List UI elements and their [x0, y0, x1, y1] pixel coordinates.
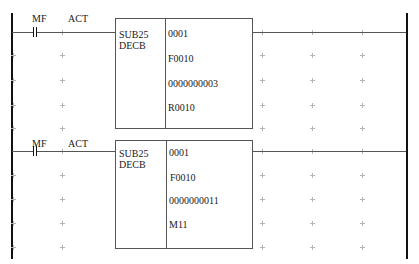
- grid-cross: [60, 197, 65, 202]
- grid-cross: [60, 78, 65, 83]
- grid-cross: [11, 221, 16, 226]
- function-block-instruction: DECB: [119, 40, 146, 51]
- grid-cross: [60, 103, 65, 108]
- rung-1-wire: [37, 32, 115, 33]
- grid-cross: [11, 126, 16, 131]
- grid-cross: [360, 245, 365, 250]
- rung-2-output-wire: [253, 151, 406, 152]
- grid-cross: [260, 103, 265, 108]
- grid-cross: [360, 126, 365, 131]
- grid-cross: [310, 173, 315, 178]
- grid-cross: [260, 53, 265, 58]
- operand-value: 0000000003: [168, 79, 218, 89]
- grid-cross: [260, 173, 265, 178]
- grid-cross: [310, 197, 315, 202]
- grid-cross: [11, 78, 16, 83]
- function-block-name: SUB25: [119, 29, 148, 40]
- operand-control: 0001: [169, 148, 189, 158]
- function-block-instruction: DECB: [119, 159, 146, 170]
- grid-cross: [60, 126, 65, 131]
- grid-cross: [60, 53, 65, 58]
- grid-cross: [11, 53, 16, 58]
- grid-cross: [310, 53, 315, 58]
- operand-format: F0010: [168, 54, 194, 64]
- rung-1-function-block[interactable]: SUB25 DECB 0001 F0010 0000000003 R0010: [115, 18, 253, 129]
- grid-cross: [310, 245, 315, 250]
- right-power-rail: [406, 13, 408, 259]
- rung-2-wire: [37, 151, 115, 152]
- grid-cross: [11, 245, 16, 250]
- grid-cross: [310, 103, 315, 108]
- grid-cross: [310, 126, 315, 131]
- grid-cross: [310, 78, 315, 83]
- rung-1-input-wire: [12, 32, 34, 33]
- grid-cross: [260, 221, 265, 226]
- grid-cross: [310, 221, 315, 226]
- rung-1-contact-label: MF: [32, 14, 46, 24]
- grid-cross: [260, 78, 265, 83]
- grid-cross: [11, 173, 16, 178]
- function-block-divider: [165, 19, 166, 128]
- operand-control: 0001: [168, 29, 188, 39]
- operand-format: F0010: [170, 173, 196, 183]
- grid-cross: [260, 197, 265, 202]
- rung-2-function-block[interactable]: SUB25 DECB 0001 F0010 0000000011 M11: [115, 140, 253, 249]
- function-block-name: SUB25: [119, 148, 148, 159]
- operand-output: M11: [169, 220, 188, 230]
- operand-output: R0010: [168, 103, 195, 113]
- grid-cross: [360, 197, 365, 202]
- grid-cross: [11, 197, 16, 202]
- grid-cross: [360, 53, 365, 58]
- grid-cross: [360, 173, 365, 178]
- rung-2-act-label: ACT: [68, 139, 88, 149]
- grid-cross: [60, 245, 65, 250]
- grid-cross: [11, 103, 16, 108]
- grid-cross: [260, 126, 265, 131]
- grid-cross: [360, 78, 365, 83]
- grid-cross: [260, 245, 265, 250]
- grid-cross: [360, 221, 365, 226]
- operand-value: 0000000011: [169, 196, 219, 206]
- grid-cross: [360, 103, 365, 108]
- rung-1-act-label: ACT: [68, 14, 88, 24]
- grid-cross: [60, 221, 65, 226]
- rung-2-input-wire: [12, 151, 34, 152]
- grid-cross: [60, 173, 65, 178]
- rung-2-contact-label: MF: [32, 139, 46, 149]
- rung-1-output-wire: [253, 32, 406, 33]
- function-block-divider: [166, 141, 167, 248]
